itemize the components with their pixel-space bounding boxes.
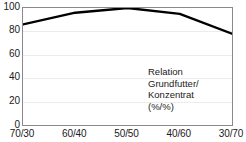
chart-container: 100 80 60 40 20 0 70/30 60/40 50/50 40/6…	[0, 0, 246, 142]
axis-caption-line-2: Grundfutter/	[148, 78, 228, 90]
y-axis: 100 80 60 40 20 0	[0, 0, 20, 142]
axis-caption-line-1: Relation	[148, 66, 228, 78]
y-tick-label-40: 40	[0, 72, 20, 82]
y-tick-label-100: 100	[0, 2, 20, 12]
x-tick-label-30-70: 30/70	[219, 128, 244, 139]
y-tick-label-80: 80	[0, 25, 20, 35]
x-tick-label-60-40: 60/40	[62, 128, 87, 139]
x-tick-label-50-50: 50/50	[114, 128, 139, 139]
x-tick-label-40-60: 40/60	[166, 128, 191, 139]
y-tick-label-20: 20	[0, 96, 20, 106]
axis-caption-line-3: Konzentrat	[148, 89, 228, 101]
x-tick-label-70-30: 70/30	[10, 128, 35, 139]
y-tick-label-60: 60	[0, 49, 20, 59]
axis-caption-line-4: (%/%)	[148, 101, 228, 113]
x-axis: 70/30 60/40 50/50 40/60 30/70	[22, 128, 233, 142]
axis-caption: Relation Grundfutter/ Konzentrat (%/%)	[148, 66, 228, 112]
